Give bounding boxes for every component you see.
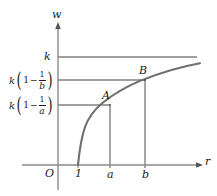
x-axis-label: r (205, 156, 210, 167)
y-tick-label-k: k (44, 51, 51, 62)
y-tick-label-k-1-over-b: k ( 1 − 1 b ) (9, 70, 54, 91)
x-tick-label-b: b (142, 169, 149, 180)
x-tick-label-a: a (107, 169, 114, 180)
minus-b: − (29, 76, 39, 85)
point-label-B: B (139, 65, 147, 76)
y-tick-label-k-1-over-a: k ( 1 − 1 a ) (9, 95, 54, 116)
origin-label: O (45, 168, 54, 179)
coef-k-a: k (9, 101, 15, 111)
x-axis-arrowhead (196, 162, 203, 168)
fraction-a: 1 a (39, 96, 46, 116)
y-axis-arrowhead (55, 22, 61, 29)
coef-k-b: k (9, 76, 15, 86)
fraction-denominator-b: b (39, 82, 45, 91)
expr-inner-a: 1 − 1 a (23, 96, 45, 116)
minus-a: − (29, 101, 39, 110)
expr-inner-b: 1 − 1 b (23, 71, 45, 91)
y-axis-label: w (52, 9, 61, 20)
x-tick-label-1: 1 (75, 168, 82, 179)
point-label-A: A (102, 90, 110, 101)
curve-path (78, 63, 200, 165)
figure-canvas: w r O 1 a b k k ( 1 − 1 b ) k ( 1 − 1 (0, 0, 217, 196)
fraction-numerator-a: 1 (40, 96, 45, 104)
left-paren-a: ( (17, 95, 22, 116)
right-paren-b: ) (47, 70, 52, 91)
right-paren-a: ) (47, 95, 52, 116)
point-marker-A (109, 104, 111, 106)
left-paren-b: ( (17, 70, 22, 91)
fraction-b: 1 b (39, 71, 46, 91)
fraction-numerator-b: 1 (40, 71, 45, 79)
fraction-denominator-a: a (39, 107, 44, 116)
point-marker-B (144, 79, 146, 81)
